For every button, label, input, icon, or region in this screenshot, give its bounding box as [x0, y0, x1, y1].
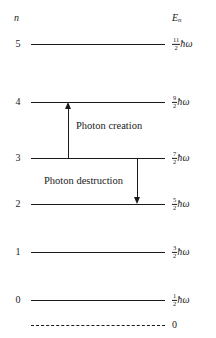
photon-creation-arrowhead-icon [65, 102, 71, 109]
level-line-0 [31, 300, 165, 301]
level-energy-3: 72ħω [172, 151, 190, 165]
level-number-2: 2 [12, 199, 24, 209]
zero-energy-baseline [31, 325, 165, 326]
level-line-5 [31, 44, 165, 45]
level-line-3 [31, 158, 165, 159]
level-line-1 [31, 252, 165, 253]
level-line-4 [31, 102, 165, 103]
level-number-4: 4 [12, 97, 24, 107]
energy-level-diagram: n En 5 112ħω 4 92ħω 3 72ħω 2 52ħω 1 32ħω… [0, 0, 216, 338]
hbar-omega-3: ħω [177, 152, 189, 163]
level-energy-0: 12ħω [172, 293, 190, 307]
hbar-omega-1: ħω [177, 246, 189, 257]
level-energy-5: 112ħω [172, 37, 193, 51]
column-header-quantum-number: n [14, 13, 19, 23]
level-number-1: 1 [12, 247, 24, 257]
hbar-omega-4: ħω [177, 96, 189, 107]
photon-creation-label: Photon creation [76, 121, 142, 132]
column-header-energy: En [172, 13, 182, 24]
zero-energy-label: 0 [172, 320, 177, 330]
level-number-0: 0 [12, 295, 24, 305]
hbar-omega-0: ħω [177, 294, 189, 305]
level-energy-1: 32ħω [172, 245, 190, 259]
hbar-omega-2: ħω [177, 198, 189, 209]
level-energy-2: 52ħω [172, 197, 190, 211]
photon-destruction-label: Photon destruction [44, 176, 123, 187]
photon-creation-arrow-shaft [68, 109, 69, 158]
energy-subscript: n [178, 16, 182, 24]
level-number-3: 3 [12, 153, 24, 163]
photon-destruction-arrow-shaft [137, 158, 138, 197]
level-line-2 [31, 204, 165, 205]
photon-destruction-arrowhead-icon [134, 197, 140, 204]
level-energy-4: 92ħω [172, 95, 190, 109]
hbar-omega-5: ħω [180, 38, 192, 49]
level-number-5: 5 [12, 39, 24, 49]
